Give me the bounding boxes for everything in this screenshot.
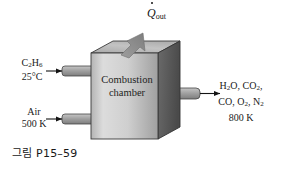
- chamber-label-line2: chamber: [96, 86, 158, 99]
- outlet-label-products: H2O, CO2, CO, O2, N2 800 K: [203, 79, 279, 124]
- figure-caption: 그림 P15–59: [12, 144, 77, 160]
- heat-subscript: out: [156, 12, 166, 21]
- rate-dot-icon: [151, 2, 153, 4]
- inlet-label-air: Air 500 K: [14, 106, 54, 130]
- inlet-air-condition: 500 K: [14, 118, 54, 130]
- inlet-fuel-condition: 25°C: [12, 71, 52, 83]
- outlet-condition: 800 K: [203, 111, 279, 124]
- inlet-fuel-species: C2H6: [12, 57, 52, 71]
- heat-out-label: Qout: [147, 6, 166, 21]
- inlet-label-fuel: C2H6 25°C: [12, 57, 52, 83]
- heat-symbol: Q: [147, 6, 156, 21]
- chamber-label-line1: Combustion: [96, 73, 158, 86]
- figure-combustion-chamber: Combustion chamber Qout C2H6 25°C Air 50…: [0, 0, 285, 170]
- inlet-air-species: Air: [14, 106, 54, 118]
- chamber-side-face: [158, 41, 180, 139]
- outlet-species-line2: CO, O2, N2: [203, 95, 279, 111]
- chamber-label: Combustion chamber: [96, 73, 158, 99]
- outlet-species-line1: H2O, CO2,: [203, 79, 279, 95]
